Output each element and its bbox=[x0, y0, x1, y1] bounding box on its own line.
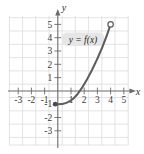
y-tick-label: 5 bbox=[47, 20, 52, 30]
x-tick-label: 4 bbox=[108, 95, 113, 105]
y-tick-label: 4 bbox=[47, 33, 52, 43]
function-label: y = f(x) bbox=[62, 33, 104, 47]
x-tick-label: -3 bbox=[14, 95, 22, 105]
function-label-text: y = f(x) bbox=[68, 35, 98, 46]
y-tick-label: 1 bbox=[47, 73, 52, 83]
x-axis-name: x bbox=[135, 86, 141, 97]
x-tick-label: 5 bbox=[121, 95, 126, 105]
x-axis bbox=[8, 88, 136, 95]
y-tick-label: 3 bbox=[47, 46, 52, 56]
y-tick-label: -3 bbox=[44, 126, 52, 136]
y-tick-labels: 5 4 3 2 1 -1 -2 -3 bbox=[44, 20, 52, 136]
y-axis-name: y bbox=[61, 2, 67, 13]
closed-endpoint-marker bbox=[53, 102, 58, 107]
x-tick-label: -2 bbox=[27, 95, 35, 105]
x-tick-label: 2 bbox=[82, 95, 87, 105]
y-tick-label: 2 bbox=[47, 60, 52, 70]
graph-svg: -3 -2 -1 1 2 3 4 5 5 4 3 2 1 -1 -2 -3 x … bbox=[0, 0, 144, 154]
y-axis bbox=[54, 9, 61, 148]
y-tick-label: -1 bbox=[44, 99, 52, 109]
open-endpoint-marker bbox=[108, 22, 113, 27]
x-tick-label: 3 bbox=[95, 95, 100, 105]
y-tick-label: -2 bbox=[44, 113, 52, 123]
function-graph-figure: -3 -2 -1 1 2 3 4 5 5 4 3 2 1 -1 -2 -3 x … bbox=[0, 0, 144, 154]
